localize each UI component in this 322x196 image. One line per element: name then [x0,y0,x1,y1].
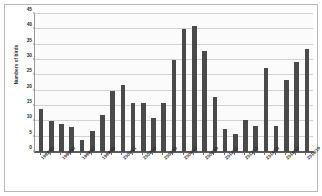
x-label-slot: 2014/15 [260,156,270,192]
x-tick-mark [162,152,163,155]
bar-slot [169,14,179,152]
bar-slot [230,14,240,152]
bar [39,109,44,152]
x-axis-labels: 1992/931994/951996/971998/992000/012002/… [34,156,312,192]
bar-slot [87,14,97,152]
bar-slot [56,14,66,152]
bar-slot [271,14,281,152]
y-tick-label-25: 25 [27,68,32,73]
bar-series [35,14,313,152]
bar [202,51,207,152]
y-tick-label-10: 10 [27,114,32,119]
x-tick-mark [80,152,81,155]
x-label-slot [127,156,137,192]
bar [294,62,299,152]
y-axis-title: Numbers of birds [14,25,19,105]
y-tick-label-35: 35 [27,37,32,42]
bar-slot [302,14,312,152]
bar [192,26,197,152]
bar-slot [159,14,169,152]
bar-slot [77,14,87,152]
x-tick-mark [40,152,41,155]
bar-slot [97,14,107,152]
bar-slot [291,14,301,152]
x-tick-mark [60,152,61,155]
x-tick-mark [224,152,225,155]
x-label-slot: 2008/09 [199,156,209,192]
x-label-slot: 2004/05 [158,156,168,192]
bar [213,97,218,152]
x-label-slot [45,156,55,192]
bar-slot [281,14,291,152]
x-label-slot: 2016/17 [280,156,290,192]
x-label-slot: 2012/13 [239,156,249,192]
x-label-slot [168,156,178,192]
bar-slot [108,14,118,152]
bar [59,124,64,152]
x-label-slot: 2002/03 [137,156,147,192]
bar-slot [261,14,271,152]
x-label-slot [209,156,219,192]
bar [121,85,126,152]
bar [172,60,177,152]
plot-area: 051015202530354045 [34,14,313,153]
bar [161,103,166,152]
bar-slot [251,14,261,152]
bar-slot [210,14,220,152]
bar [305,49,310,152]
bar-chart-figure: Numbers of birds 051015202530354045 1992… [0,0,322,196]
x-label-slot: 2010/11 [219,156,229,192]
x-label-slot [229,156,239,192]
x-label-slot: 2006/07 [178,156,188,192]
x-tick-mark [121,152,122,155]
x-label-slot: 2018/19 [301,156,311,192]
x-label-slot: 1992/93 [35,156,45,192]
bar [182,29,187,152]
x-label-slot: 1998/99 [96,156,106,192]
bar-slot [118,14,128,152]
bar-slot [200,14,210,152]
bar [141,103,146,152]
bar-slot [189,14,199,152]
x-tick-mark [203,152,204,155]
bar [100,115,105,152]
bar-slot [179,14,189,152]
bar-slot [36,14,46,152]
x-label-slot [147,156,157,192]
bar [223,129,228,152]
x-label-slot [290,156,300,192]
bar [80,140,85,152]
x-label-slot: 1994/95 [55,156,65,192]
x-label-slot [250,156,260,192]
bar-slot [240,14,250,152]
bar [110,91,115,152]
bar-slot [138,14,148,152]
bar-slot [128,14,138,152]
bar [284,80,289,152]
bar-slot [46,14,56,152]
y-tick-label-15: 15 [27,99,32,104]
y-tick-label-5: 5 [29,129,32,134]
x-label-slot [107,156,117,192]
x-label-slot [86,156,96,192]
y-tick-label-0: 0 [29,145,32,150]
bar [264,68,269,152]
x-tick-mark [305,152,306,155]
x-tick-mark [264,152,265,155]
bar-slot [148,14,158,152]
y-tick-label-30: 30 [27,53,32,58]
y-tick-label-20: 20 [27,83,32,88]
x-label-slot: 1996/97 [76,156,86,192]
x-label-slot [188,156,198,192]
x-label-slot [66,156,76,192]
bar [243,120,248,152]
y-tick-label-40: 40 [27,22,32,27]
x-label-slot: 2000/01 [117,156,127,192]
y-tick-label-45: 45 [27,7,32,12]
bar-slot [220,14,230,152]
x-label-slot [270,156,280,192]
bar-slot [67,14,77,152]
